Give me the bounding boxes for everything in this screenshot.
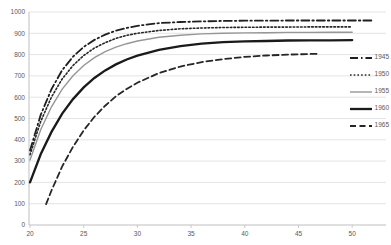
y-tick-label: 600 [14, 94, 25, 101]
y-tick-label: 1000 [11, 8, 26, 15]
series-line-1950 [30, 27, 352, 155]
y-tick-label: 800 [14, 51, 25, 58]
x-tick-label: 45 [295, 230, 303, 237]
legend-line-sample-solid-bold [350, 106, 372, 112]
legend-item-1945: 1945 [350, 52, 389, 63]
y-tick-label: 900 [14, 30, 25, 37]
legend-item-1955: 1955 [350, 86, 389, 97]
y-tick-label: 500 [14, 115, 25, 122]
x-tick-label: 20 [26, 230, 34, 237]
y-tick-label: 0 [21, 221, 25, 228]
x-tick-label: 25 [80, 230, 88, 237]
legend-label: 1965 [375, 122, 389, 129]
legend-item-1950: 1950 [350, 69, 389, 80]
series-line-1965 [46, 54, 320, 204]
legend-label: 1955 [375, 88, 389, 95]
x-tick-label: 35 [187, 230, 195, 237]
legend-label: 1945 [375, 54, 389, 61]
x-tick-label: 40 [241, 230, 249, 237]
legend-item-1960: 1960 [350, 103, 389, 114]
legend-line-sample-dashed [350, 123, 372, 129]
legend-line-sample-dash-dot [350, 55, 372, 61]
y-tick-label: 100 [14, 200, 25, 207]
legend-line-sample-solid [350, 89, 372, 95]
legend: 19451950195519601965 [350, 52, 389, 131]
y-tick-label: 700 [14, 72, 25, 79]
y-tick-label: 400 [14, 136, 25, 143]
legend-label: 1950 [375, 71, 389, 78]
legend-label: 1960 [375, 105, 389, 112]
chart-container: 0100200300400500600700800900100020253035… [0, 0, 391, 245]
x-tick-label: 50 [349, 230, 357, 237]
legend-line-sample-dotted [350, 72, 372, 78]
x-tick-label: 30 [134, 230, 142, 237]
y-tick-label: 300 [14, 157, 25, 164]
legend-item-1965: 1965 [350, 120, 389, 131]
y-tick-label: 200 [14, 179, 25, 186]
line-chart: 0100200300400500600700800900100020253035… [0, 0, 391, 245]
